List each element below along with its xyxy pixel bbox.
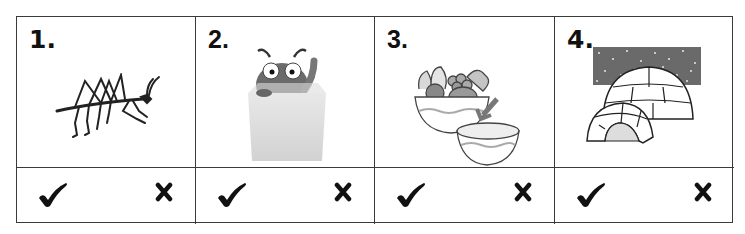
cross-mark-icon[interactable] bbox=[514, 182, 532, 202]
cross-mark-icon[interactable] bbox=[334, 182, 352, 202]
item-number: 2. bbox=[208, 25, 229, 54]
check-mark-icon[interactable] bbox=[37, 182, 69, 208]
fruit-bowls-arrow-icon bbox=[411, 57, 521, 167]
worksheet-grid: 1. 2. bbox=[16, 16, 733, 223]
item-1-picture-cell: 1. bbox=[17, 17, 196, 168]
bug-in-box-icon bbox=[242, 47, 332, 163]
item-number: 3. bbox=[387, 25, 408, 54]
item-4-answer-cell bbox=[555, 168, 734, 224]
cross-mark-icon[interactable] bbox=[694, 182, 712, 202]
item-1-answer-cell bbox=[17, 168, 196, 224]
check-mark-icon[interactable] bbox=[575, 182, 607, 208]
igloo-night-icon bbox=[583, 47, 703, 151]
stick-insect-icon bbox=[53, 73, 163, 148]
cross-mark-icon[interactable] bbox=[155, 182, 173, 202]
item-number: 1. bbox=[29, 25, 56, 54]
item-2-picture-cell: 2. bbox=[196, 17, 375, 168]
check-mark-icon[interactable] bbox=[395, 182, 427, 208]
item-3-picture-cell: 3. bbox=[375, 17, 555, 168]
check-mark-icon[interactable] bbox=[216, 182, 248, 208]
item-3-answer-cell bbox=[375, 168, 555, 224]
item-2-answer-cell bbox=[196, 168, 375, 224]
item-4-picture-cell: 4. bbox=[555, 17, 734, 168]
